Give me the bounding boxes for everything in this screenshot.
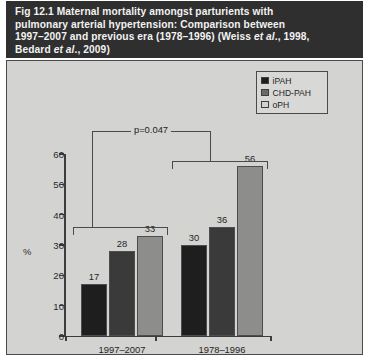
legend-item-chd-pah: CHD-PAH <box>261 87 323 98</box>
caption-line-3b: ., 1998, <box>275 31 310 42</box>
caption-line-3-italic: et al <box>254 31 275 42</box>
bar-value-label: 30 <box>189 232 199 243</box>
caption-line-4-italic: et al <box>54 44 75 55</box>
x-axis-tick <box>155 336 157 341</box>
legend-swatch-icon <box>261 89 269 97</box>
plot-area: 6050403020100 % 1997–20071978–1996 17283… <box>7 61 362 354</box>
caption-line-1: Maternal mortality amongst parturients w… <box>57 6 274 17</box>
bar-chd-pah-1 <box>109 251 135 336</box>
bar-value-label: 17 <box>89 271 99 282</box>
bar-oph-2 <box>237 166 263 336</box>
legend-item-ipah: iPAH <box>261 75 323 86</box>
bracket-group2-top <box>172 161 267 162</box>
p-value-label: p=0.047 <box>131 124 171 135</box>
bar-oph-1 <box>137 236 163 336</box>
x-axis-tick <box>270 336 272 341</box>
bar-ipah-1 <box>81 284 107 336</box>
x-axis-tick-label: 1997–2007 <box>99 344 146 355</box>
x-axis-tick <box>65 336 67 341</box>
caption-line-2: pulmonary arterial hypertension: Compari… <box>15 19 285 30</box>
bracket-outer-left <box>92 131 93 227</box>
bracket-group2-left <box>172 161 173 169</box>
legend-item-label: oPH <box>273 100 290 110</box>
y-axis-tick-label: 20 <box>18 270 64 281</box>
y-axis-tick-label: 10 <box>18 300 64 311</box>
legend-swatch-icon <box>261 101 269 109</box>
bar-value-label: 56 <box>245 153 255 164</box>
bar-ipah-2 <box>181 245 207 336</box>
legend-item-label: CHD-PAH <box>273 88 312 98</box>
y-axis-tick-label: 60 <box>18 149 64 160</box>
figure-number: Fig 12.1 <box>15 6 54 17</box>
bracket-group1-left <box>73 227 74 235</box>
legend-item-oph: oPH <box>261 99 323 110</box>
figure-root: Fig 12.1Maternal mortality amongst partu… <box>0 0 369 358</box>
bracket-group2-right <box>267 161 268 169</box>
legend-swatch-icon <box>261 77 269 85</box>
y-axis-line <box>64 154 66 337</box>
chart-legend: iPAHCHD-PAHoPH <box>256 71 328 114</box>
bar-value-label: 33 <box>145 223 155 234</box>
y-axis-title: % <box>23 246 31 257</box>
legend-item-label: iPAH <box>273 76 292 86</box>
caption-line-4b: ., 2009) <box>75 44 110 55</box>
caption-line-4a: Bedard <box>15 44 54 55</box>
caption-line-3a: 1997–2007 and previous era (1978–1996) (… <box>15 31 254 42</box>
bar-value-label: 36 <box>217 214 227 225</box>
y-axis-tick-label: 40 <box>18 209 64 220</box>
y-axis-tick-label: 0 <box>18 331 64 342</box>
bar-value-label: 28 <box>117 238 127 249</box>
bracket-outer-right <box>210 131 211 161</box>
bracket-group1-top <box>73 227 167 228</box>
figure-caption-text: Fig 12.1Maternal mortality amongst partu… <box>15 6 355 56</box>
bracket-group1-right <box>167 227 168 235</box>
x-axis-tick-label: 1978–1996 <box>199 344 246 355</box>
y-axis-tick-label: 50 <box>18 179 64 190</box>
figure-caption-banner: Fig 12.1Maternal mortality amongst partu… <box>6 1 363 58</box>
bar-chd-pah-2 <box>209 227 235 336</box>
chart-panel: 6050403020100 % 1997–20071978–1996 17283… <box>6 60 363 355</box>
